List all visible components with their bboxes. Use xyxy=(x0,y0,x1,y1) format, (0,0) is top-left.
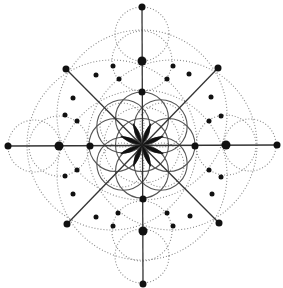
node-dot xyxy=(216,220,223,227)
node-dot xyxy=(63,113,68,118)
node-dot xyxy=(210,192,215,197)
node-dot xyxy=(139,89,146,96)
node-dot xyxy=(117,77,122,82)
node-dot xyxy=(140,281,147,288)
node-dot xyxy=(87,143,94,150)
node-dot xyxy=(55,142,64,151)
node-dot xyxy=(71,96,76,101)
node-dot xyxy=(222,141,231,150)
node-dot xyxy=(139,4,146,11)
node-dot xyxy=(207,168,212,173)
node-dot xyxy=(219,175,224,180)
node-dot xyxy=(187,72,192,77)
node-dot xyxy=(138,57,147,66)
node-dot xyxy=(111,64,116,69)
node-dot xyxy=(207,119,212,124)
node-dot xyxy=(63,174,68,179)
node-dot xyxy=(215,65,222,72)
mandala-canvas xyxy=(0,0,283,288)
node-dot xyxy=(171,224,176,229)
node-dot xyxy=(94,215,99,220)
node-dot xyxy=(219,114,224,119)
dotted-circle xyxy=(115,229,169,283)
node-dot xyxy=(165,211,170,216)
node-dot xyxy=(75,168,80,173)
mandala-diagram xyxy=(0,0,283,288)
dotted-circle xyxy=(100,143,144,187)
node-dot xyxy=(64,221,71,228)
node-dot xyxy=(75,119,80,124)
node-dot xyxy=(274,142,281,149)
node-dot xyxy=(5,143,12,150)
node-dot xyxy=(63,66,70,73)
node-dot xyxy=(139,227,148,236)
node-dot xyxy=(171,64,176,69)
node-dot xyxy=(209,95,214,100)
node-dot xyxy=(111,224,116,229)
node-dot xyxy=(140,196,147,203)
node-dot xyxy=(116,211,121,216)
node-dot xyxy=(71,192,76,197)
node-dot xyxy=(165,77,170,82)
node-dot xyxy=(192,143,199,150)
node-dot xyxy=(188,214,193,219)
node-dot xyxy=(94,73,99,78)
axis-lines-layer xyxy=(8,7,277,284)
